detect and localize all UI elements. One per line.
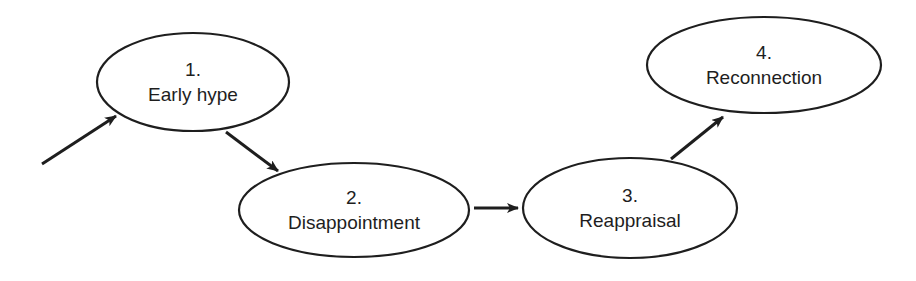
stage-label: Reconnection [706,67,822,88]
stage-label: Disappointment [288,212,421,233]
stage-label: Early hype [148,84,238,105]
arrow-3-to-4 [671,117,723,159]
stage-ellipse [647,17,881,113]
stage-node-4: 4.Reconnection [647,17,881,113]
stage-ellipse [523,158,737,258]
stage-node-1: 1.Early hype [97,33,289,131]
stage-node-2: 2.Disappointment [239,163,469,257]
stage-number: 1. [185,59,201,80]
stage-node-3: 3.Reappraisal [523,158,737,258]
stage-number: 4. [756,42,772,63]
arrow-start-to-1 [42,116,116,164]
stage-ellipse [97,33,289,131]
arrow-1-to-2 [226,132,278,171]
stage-ellipse [239,163,469,257]
stage-number: 3. [622,185,638,206]
stage-label: Reappraisal [579,210,680,231]
diagram-canvas: 1.Early hype2.Disappointment3.Reappraisa… [0,0,916,281]
stage-number: 2. [346,187,362,208]
